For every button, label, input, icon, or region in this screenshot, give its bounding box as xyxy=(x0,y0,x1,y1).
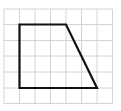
grid-diagram xyxy=(0,0,121,111)
